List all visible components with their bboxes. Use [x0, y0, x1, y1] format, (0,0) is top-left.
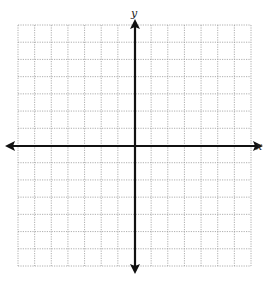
coordinate-plane: x y	[0, 0, 270, 283]
x-axis-label: x	[256, 140, 263, 153]
axes	[5, 19, 263, 274]
y-axis-label: y	[130, 7, 138, 20]
